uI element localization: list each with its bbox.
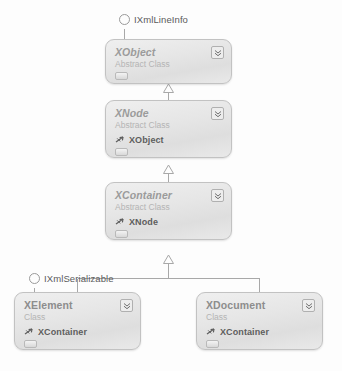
interface-label: IXmlLineInfo [134, 14, 188, 25]
class-name: XDocument [206, 299, 314, 311]
base-type-arrow-icon [115, 217, 125, 227]
class-box-xelement[interactable]: XElement Class XContainer [14, 292, 141, 350]
lollipop-circle-icon [29, 273, 40, 284]
member-label: XContainer [38, 327, 87, 337]
collapsed-section-handle-icon[interactable] [115, 230, 128, 238]
collapsed-section-handle-icon[interactable] [115, 72, 128, 80]
class-footer [15, 338, 140, 348]
double-chevron-down-icon[interactable] [211, 46, 224, 59]
class-diagram-canvas: IXmlLineInfo IXmlSerializable XObject Ab… [0, 0, 342, 371]
collapsed-section-handle-icon[interactable] [206, 340, 219, 348]
class-kind: Abstract Class [115, 120, 223, 131]
generalization-arrowhead [164, 165, 174, 174]
collapsed-section-handle-icon[interactable] [115, 148, 128, 156]
class-box-xobject[interactable]: XObject Abstract Class [105, 39, 232, 84]
class-footer [106, 228, 231, 238]
class-name: XNode [115, 107, 223, 119]
class-box-xcontainer[interactable]: XContainer Abstract Class XNode [105, 182, 232, 240]
member-row[interactable]: XContainer [206, 325, 314, 338]
base-type-arrow-icon [24, 327, 34, 337]
class-members: XObject [106, 131, 231, 146]
class-name: XContainer [115, 189, 223, 201]
member-row[interactable]: XObject [115, 133, 223, 146]
member-label: XNode [129, 217, 158, 227]
class-box-xnode[interactable]: XNode Abstract Class XObject [105, 100, 232, 158]
class-members: XContainer [197, 323, 322, 338]
base-type-arrow-icon [206, 327, 216, 337]
collapsed-section-handle-icon[interactable] [24, 340, 37, 348]
class-name: XObject [115, 46, 223, 58]
class-header: XNode Abstract Class [106, 101, 231, 131]
double-chevron-down-icon[interactable] [211, 107, 224, 120]
class-box-xdocument[interactable]: XDocument Class XContainer [196, 292, 323, 350]
interface-label: IXmlSerializable [44, 273, 114, 284]
class-kind: Abstract Class [115, 59, 223, 70]
lollipop-circle-icon [119, 14, 130, 25]
double-chevron-down-icon[interactable] [302, 299, 315, 312]
member-label: XContainer [220, 327, 269, 337]
base-type-arrow-icon [115, 135, 125, 145]
member-label: XObject [129, 135, 164, 145]
class-kind: Abstract Class [115, 202, 223, 213]
generalization-arrowhead [164, 84, 174, 93]
class-members: XContainer [15, 323, 140, 338]
class-footer [106, 70, 231, 80]
class-header: XObject Abstract Class [106, 40, 231, 70]
class-name: XElement [24, 299, 132, 311]
interface-lollipop-ixmlserializable[interactable]: IXmlSerializable [29, 273, 114, 284]
member-row[interactable]: XNode [115, 215, 223, 228]
interface-lollipop-ixmllineinfo[interactable]: IXmlLineInfo [119, 14, 188, 25]
class-footer [106, 146, 231, 156]
class-kind: Class [24, 312, 132, 323]
class-header: XElement Class [15, 293, 140, 323]
double-chevron-down-icon[interactable] [211, 189, 224, 202]
class-footer [197, 338, 322, 348]
class-header: XDocument Class [197, 293, 322, 323]
generalization-arrowhead [164, 255, 174, 264]
double-chevron-down-icon[interactable] [120, 299, 133, 312]
class-members: XNode [106, 213, 231, 228]
class-header: XContainer Abstract Class [106, 183, 231, 213]
class-kind: Class [206, 312, 314, 323]
member-row[interactable]: XContainer [24, 325, 132, 338]
